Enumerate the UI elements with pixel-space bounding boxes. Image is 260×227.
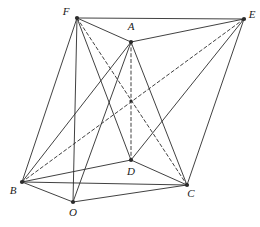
vertex-label-O: O — [69, 206, 77, 218]
vertex-dot-A — [129, 40, 133, 44]
vertex-label-layer: FAEDBCO — [10, 5, 256, 218]
edge-A-O — [73, 42, 131, 202]
vertex-label-D: D — [126, 165, 135, 177]
vertex-label-A: A — [127, 20, 135, 32]
edge-A-B — [22, 42, 131, 182]
edge-F-D — [77, 18, 131, 160]
edge-F-O — [73, 18, 77, 202]
vertex-dot-D — [129, 158, 133, 162]
edge-A-E — [131, 19, 244, 42]
vertex-dot-B — [20, 180, 24, 184]
edge-F-E — [77, 18, 244, 19]
edge-E-C — [187, 19, 244, 185]
geometry-diagram: FAEDBCO — [0, 0, 260, 227]
edge-F-B — [22, 18, 77, 182]
edge-B-C — [22, 182, 187, 185]
vertex-label-C: C — [187, 187, 195, 199]
edge-B-D — [22, 160, 131, 182]
edge-B-O — [22, 182, 73, 202]
vertex-dot-O — [71, 200, 75, 204]
vertex-dot-F — [75, 16, 79, 20]
vertex-dot-M — [129, 99, 132, 102]
vertex-label-B: B — [10, 184, 17, 196]
edge-O-C — [73, 185, 187, 202]
vertex-label-E: E — [248, 8, 256, 20]
vertex-dot-E — [242, 17, 246, 21]
vertex-label-F: F — [62, 5, 70, 17]
